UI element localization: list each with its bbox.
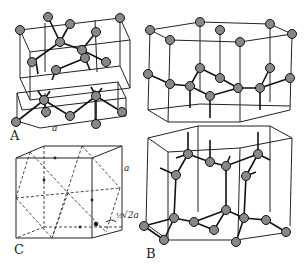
atom bbox=[266, 64, 275, 73]
atom bbox=[196, 64, 205, 73]
panel-a-lower-cell bbox=[12, 82, 127, 129]
atom bbox=[102, 58, 111, 67]
atom bbox=[242, 172, 251, 181]
panel-b-upper-hexagonal-cell bbox=[144, 18, 297, 123]
atom bbox=[16, 26, 25, 35]
cube-edge-label: a bbox=[124, 163, 129, 173]
atom bbox=[172, 171, 181, 180]
atom bbox=[92, 28, 101, 37]
atom bbox=[66, 20, 75, 29]
atom bbox=[236, 38, 245, 47]
atom bbox=[240, 214, 249, 223]
atom bbox=[256, 84, 265, 93]
atom bbox=[146, 26, 155, 35]
atom bbox=[12, 118, 21, 127]
atom bbox=[52, 66, 61, 75]
atom bbox=[262, 216, 271, 225]
atom bbox=[144, 70, 153, 79]
atom bbox=[210, 226, 219, 235]
atom bbox=[190, 218, 199, 227]
atom bbox=[184, 150, 193, 159]
atom bbox=[282, 228, 291, 237]
crystal-structures-figure: A a C a ½ √2a bbox=[0, 0, 307, 267]
atom bbox=[286, 74, 295, 83]
atom bbox=[232, 238, 241, 247]
atom bbox=[222, 162, 231, 171]
panel-label-a: A bbox=[9, 128, 20, 143]
atom bbox=[81, 54, 90, 63]
atom bbox=[166, 36, 175, 45]
atom bbox=[170, 214, 179, 223]
panel-c-cube bbox=[16, 146, 122, 238]
atom bbox=[216, 74, 225, 83]
atom bbox=[234, 84, 243, 93]
lattice-constant-label-a: a bbox=[52, 123, 57, 133]
atom bbox=[186, 82, 195, 91]
atom bbox=[196, 18, 205, 27]
panel-label-b: B bbox=[146, 246, 156, 261]
atom bbox=[166, 80, 175, 89]
atom bbox=[92, 92, 101, 101]
atom bbox=[92, 120, 101, 129]
panel-b-lower-hexagonal-cell bbox=[140, 126, 293, 247]
atom bbox=[66, 112, 75, 121]
atom bbox=[116, 14, 125, 23]
atom bbox=[28, 58, 37, 67]
atom bbox=[40, 96, 49, 105]
atom bbox=[288, 30, 297, 39]
atom bbox=[266, 20, 275, 29]
atom bbox=[160, 236, 169, 245]
atom bbox=[222, 206, 231, 215]
sqrt2-annotation: √2a bbox=[122, 210, 139, 220]
atom bbox=[140, 222, 149, 231]
atom bbox=[206, 158, 215, 167]
atom bbox=[206, 92, 215, 101]
atom bbox=[42, 108, 51, 117]
atom bbox=[118, 108, 127, 117]
atom bbox=[56, 38, 65, 47]
panel-label-c: C bbox=[14, 242, 24, 257]
atom bbox=[254, 150, 263, 159]
atom bbox=[44, 13, 53, 22]
atom bbox=[216, 26, 225, 35]
